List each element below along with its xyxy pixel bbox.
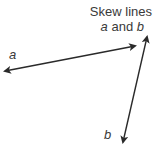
line-a <box>5 46 135 71</box>
diagram-title: Skew lines a and b <box>72 4 152 34</box>
title-line-2: a and b <box>72 19 144 34</box>
title-and: and <box>108 19 137 34</box>
title-var-a: a <box>101 19 108 34</box>
skew-lines-diagram: Skew lines a and b a b <box>0 0 156 154</box>
title-var-b: b <box>137 19 144 34</box>
title-line-1: Skew lines <box>90 4 152 19</box>
line-a-label: a <box>9 47 16 62</box>
line-b <box>123 37 147 142</box>
line-b-label: b <box>104 127 111 142</box>
